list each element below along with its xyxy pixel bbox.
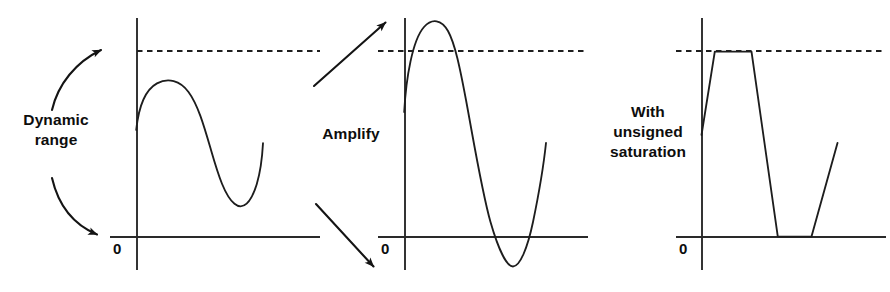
panel-saturated [676, 18, 886, 270]
dynamic-range-upper-arrow [52, 50, 101, 110]
caption-unsigned-saturation: With unsigned saturation [596, 102, 700, 161]
panel-1-waveform [136, 80, 263, 206]
zero-label-panel-original: 0 [113, 241, 121, 256]
panel-3-waveform [702, 52, 838, 237]
zero-label-panel-saturated: 0 [679, 241, 687, 256]
zero-label-panel-amplified: 0 [381, 241, 389, 256]
amplify-callouts [314, 23, 386, 267]
panel-original [110, 18, 320, 270]
dynamic-range-lower-arrow [52, 178, 97, 235]
figure-canvas: Dynamic range Amplify With unsigned satu… [0, 0, 890, 292]
caption-dynamic-range: Dynamic range [4, 110, 108, 150]
panel-2-waveform [404, 21, 546, 266]
amplify-lower-arrow [316, 204, 374, 267]
caption-amplify: Amplify [305, 124, 397, 144]
amplify-upper-arrow [314, 23, 386, 87]
diagram-svg [0, 0, 890, 292]
panel-amplified [378, 18, 588, 270]
